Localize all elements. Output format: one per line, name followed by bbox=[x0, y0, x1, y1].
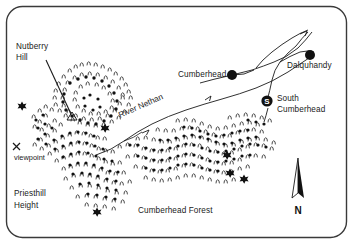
label-nutberry-hill-line1: Nutberry bbox=[16, 42, 49, 51]
label-dalquhandy: Dalquhandy bbox=[287, 61, 333, 70]
label-priesthill-height-line1: Priesthill bbox=[14, 189, 46, 198]
label-cumberhead-forest: Cumberhead Forest bbox=[138, 206, 213, 215]
label-priesthill-height-line2: Height bbox=[14, 201, 39, 210]
south-cumberhead-symbol-letter: S bbox=[264, 97, 270, 106]
map-border bbox=[7, 7, 347, 238]
settlement-dot-cumberhead bbox=[227, 70, 237, 80]
location-map-figure: S N Nutberry Hill River Nethan Cumberhea… bbox=[0, 0, 353, 245]
label-south-cumberhead-line2: Cumberhead bbox=[277, 105, 326, 114]
label-south-cumberhead-line1: South bbox=[277, 94, 299, 103]
map-canvas: S N Nutberry Hill River Nethan Cumberhea… bbox=[0, 0, 353, 245]
label-viewpoint: viewpoint bbox=[14, 153, 45, 162]
label-nutberry-hill-line2: Hill bbox=[16, 53, 28, 62]
label-cumberhead: Cumberhead bbox=[178, 70, 227, 79]
settlement-dot-dalquhandy bbox=[305, 50, 315, 60]
settlement-marker-south-cumberhead: S bbox=[261, 95, 272, 106]
compass-north-label: N bbox=[294, 205, 301, 216]
